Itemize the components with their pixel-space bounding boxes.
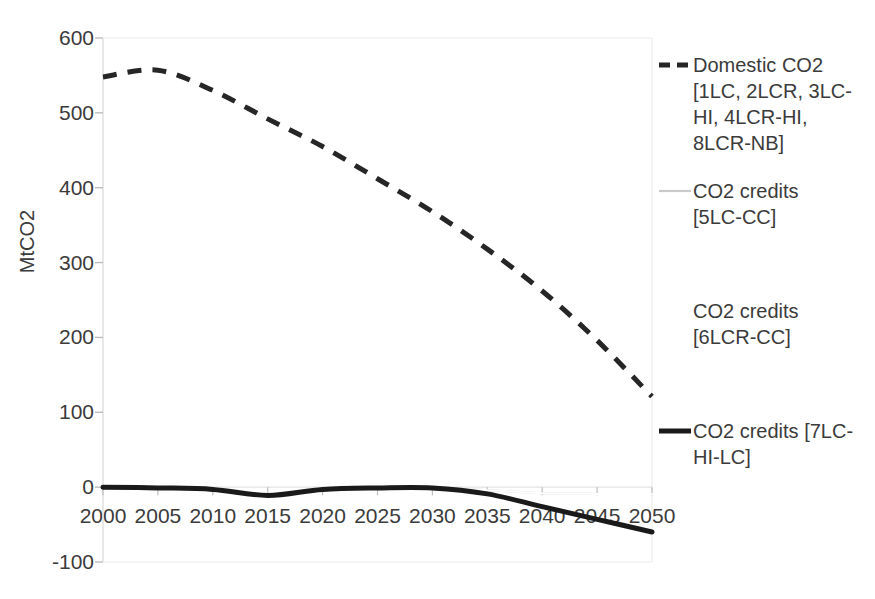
plot-frame bbox=[103, 38, 652, 562]
legend-entry[interactable]: Domestic CO2 [1LC, 2LCR, 3LC- HI, 4LCR-H… bbox=[658, 52, 873, 156]
legend-marker-dashed-line-icon bbox=[658, 52, 692, 78]
series-line-1 bbox=[103, 70, 652, 397]
chart-figure: MtCO2 6005004003002001000-100 2000200520… bbox=[0, 0, 875, 599]
legend-marker-solid-line-thin-icon bbox=[658, 178, 692, 204]
legend-marker-solid-line-thick-icon bbox=[658, 418, 692, 444]
legend-label: Domestic CO2 [1LC, 2LCR, 3LC- HI, 4LCR-H… bbox=[693, 52, 852, 156]
legend-entry[interactable]: CO2 credits [7LC- HI-LC] bbox=[658, 418, 873, 470]
legend-marker-solid-line-blank-icon bbox=[658, 298, 692, 324]
axis-ticks bbox=[95, 38, 652, 562]
series-lines bbox=[103, 70, 652, 532]
legend-label: CO2 credits [7LC- HI-LC] bbox=[693, 418, 853, 470]
legend-entry[interactable]: CO2 credits [6LCR-CC] bbox=[658, 298, 873, 350]
legend-label: CO2 credits [6LCR-CC] bbox=[693, 298, 799, 350]
chart-legend: Domestic CO2 [1LC, 2LCR, 3LC- HI, 4LCR-H… bbox=[658, 52, 873, 522]
legend-entry[interactable]: CO2 credits [5LC-CC] bbox=[658, 178, 873, 230]
legend-label: CO2 credits [5LC-CC] bbox=[693, 178, 799, 230]
